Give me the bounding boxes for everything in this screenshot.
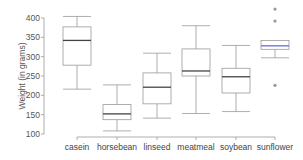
iqr-box bbox=[63, 27, 91, 65]
boxplot-chart: 100150200250300350400 caseinhorsebeanlin… bbox=[0, 0, 303, 160]
y-tick-label: 150 bbox=[26, 110, 40, 120]
y-tick-label: 400 bbox=[26, 13, 40, 23]
iqr-box bbox=[143, 73, 171, 104]
boxes bbox=[63, 7, 289, 130]
iqr-box bbox=[103, 105, 131, 120]
outlier-point bbox=[273, 84, 276, 87]
y-tick-label: 200 bbox=[26, 90, 40, 100]
x-axis: caseinhorsebeanlinseedmeatmealsoybeansun… bbox=[65, 137, 294, 152]
y-axis-label: Weight (in grams) bbox=[17, 42, 27, 109]
box-horsebean bbox=[103, 85, 131, 131]
y-tick-label: 250 bbox=[26, 71, 40, 81]
y-tick-label: 300 bbox=[26, 52, 40, 62]
y-tick-label: 350 bbox=[26, 32, 40, 42]
y-tick-label: 100 bbox=[26, 129, 40, 139]
y-axis: 100150200250300350400 bbox=[26, 13, 44, 139]
iqr-box bbox=[261, 40, 289, 49]
x-category-label: linseed bbox=[144, 142, 171, 152]
box-meatmeal bbox=[182, 26, 210, 114]
box-soybean bbox=[222, 45, 250, 111]
box-sunflower bbox=[261, 7, 289, 86]
outlier-point bbox=[273, 19, 276, 22]
x-category-label: soybean bbox=[220, 142, 252, 152]
outlier-point bbox=[273, 7, 276, 10]
iqr-box bbox=[222, 68, 250, 93]
x-category-label: meatmeal bbox=[177, 142, 214, 152]
x-category-label: horsebean bbox=[97, 142, 137, 152]
box-linseed bbox=[143, 53, 171, 118]
box-casein bbox=[63, 16, 91, 89]
iqr-box bbox=[182, 49, 210, 76]
x-category-label: sunflower bbox=[257, 142, 294, 152]
x-category-label: casein bbox=[65, 142, 90, 152]
